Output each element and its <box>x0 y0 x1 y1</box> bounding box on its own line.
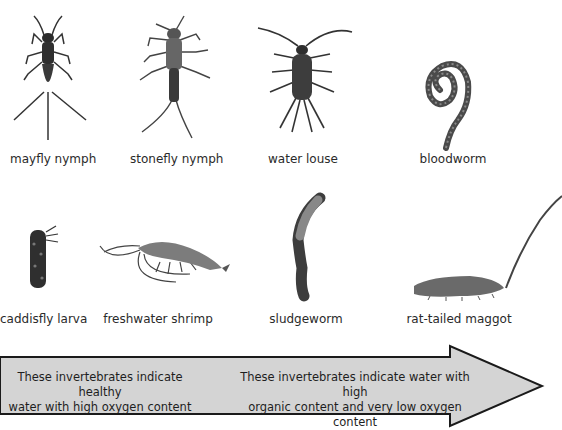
arrow-left-text: These invertebrates indicate healthy wat… <box>0 370 200 415</box>
arrow-right-text: These invertebrates indicate water with … <box>230 370 480 430</box>
